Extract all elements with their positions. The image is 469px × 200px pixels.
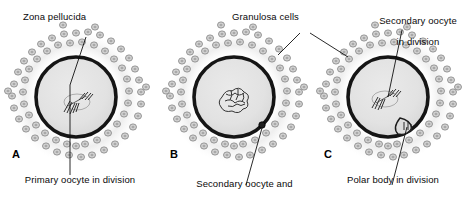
caption-primary-oocyte-in-division: Primary oocyte in division (10, 175, 150, 186)
oocyte-division-figure: Zona pellucida Granulosa cells Secondary… (0, 0, 469, 199)
panel-letter-a: A (12, 148, 20, 160)
leader-line-granulosa-b (278, 33, 300, 55)
panel-letter-b: B (170, 148, 178, 160)
label-secondary-oocyte-in-division: Secondary oocyte in division (360, 5, 465, 58)
label-secondary-oocyte-line2: in division (397, 36, 440, 47)
caption-secondary-oocyte-and-polar-body: Secondary oocyte and polar body 1 (173, 168, 305, 199)
polar-body-1-b (259, 122, 265, 128)
caption-polar-body-in-division: Polar body in division (325, 175, 461, 186)
label-secondary-oocyte-line1: Secondary oocyte (379, 15, 457, 26)
leader-line-granulosa-c (310, 33, 348, 57)
panel-letter-c: C (324, 148, 332, 160)
zona-pellucida-a (36, 57, 116, 137)
panel-b (163, 22, 308, 185)
caption-b-line1: Secondary oocyte and (196, 178, 293, 189)
caption-b-line2: polar body 1 (218, 199, 272, 200)
label-granulosa-cells: Granulosa cells (232, 12, 299, 23)
label-zona-pellucida: Zona pellucida (23, 12, 86, 23)
panel-a (5, 22, 150, 175)
